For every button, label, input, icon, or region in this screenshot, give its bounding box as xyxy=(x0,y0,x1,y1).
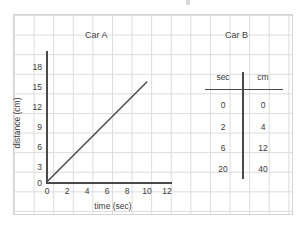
worksheet-canvas: Car A Car B 18 15 12 9 6 3 0 0 2 4 6 8 1… xyxy=(0,0,305,231)
table-column-divider xyxy=(242,72,244,179)
y-tick-label: 3 xyxy=(26,163,42,171)
x-tick-label: 10 xyxy=(140,186,154,196)
graph-paper-grid xyxy=(13,14,293,215)
x-axis-label: time (sec) xyxy=(58,201,168,211)
y-tick-label: 18 xyxy=(26,63,42,71)
table-cell-cm: 4 xyxy=(246,122,280,132)
table-cell-sec: 2 xyxy=(206,122,240,132)
table-cell-sec: 6 xyxy=(206,143,240,153)
y-tick-label: 15 xyxy=(26,83,42,91)
y-tick-label: 9 xyxy=(26,123,42,131)
x-tick-label: 12 xyxy=(160,186,174,196)
table-cell-sec: 0 xyxy=(206,100,240,110)
table-header-rule xyxy=(205,89,283,90)
table-title-car-b: Car B xyxy=(225,30,248,40)
x-tick-label: 2 xyxy=(60,186,74,196)
table-cell-cm: 40 xyxy=(246,164,280,174)
x-tick-label: 4 xyxy=(80,186,94,196)
y-axis-label: distance (cm) xyxy=(12,78,22,168)
table-header-sec: sec xyxy=(206,72,240,82)
y-axis-line xyxy=(46,51,48,183)
x-tick-label: 6 xyxy=(100,186,114,196)
y-tick-label: 12 xyxy=(26,103,42,111)
graph-paper-right-edge xyxy=(292,14,293,215)
graph-paper-bottom-edge xyxy=(13,214,293,215)
cropped-top-artifact xyxy=(186,0,190,5)
x-axis-line xyxy=(46,182,172,184)
x-tick-label: 8 xyxy=(120,186,134,196)
table-header-cm: cm xyxy=(246,72,280,82)
x-axis-tick-labels: 0 2 4 6 8 10 12 xyxy=(0,186,305,200)
y-tick-label: 6 xyxy=(26,143,42,151)
table-cell-cm: 12 xyxy=(246,143,280,153)
table-cell-cm: 0 xyxy=(246,100,280,110)
x-tick-label: 0 xyxy=(40,186,54,196)
chart-title-car-a: Car A xyxy=(85,30,108,40)
table-cell-sec: 20 xyxy=(206,164,240,174)
